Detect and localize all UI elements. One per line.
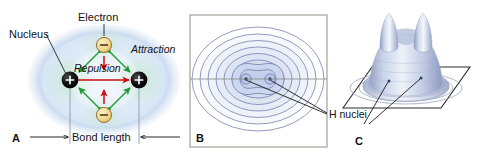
label-electron: Electron: [78, 11, 118, 23]
panel-letter-a: A: [12, 132, 20, 144]
panel-letter-b: B: [196, 132, 204, 144]
nucleus-left: [62, 72, 79, 89]
panel-letter-c: C: [355, 135, 363, 147]
panel-b: B: [190, 15, 327, 147]
electron-top: [96, 37, 111, 52]
electron-bottom: [96, 107, 111, 122]
label-nucleus: Nucleus: [9, 28, 49, 40]
label-h-nuclei: H nuclei: [329, 108, 367, 120]
figure-root: Nucleus Electron Attraction Repulsion Bo…: [0, 0, 486, 162]
nucleus-right: [131, 72, 148, 89]
label-bond-length: Bond length: [72, 131, 131, 143]
label-repulsion: Repulsion: [74, 62, 121, 74]
label-attraction: Attraction: [130, 43, 176, 55]
